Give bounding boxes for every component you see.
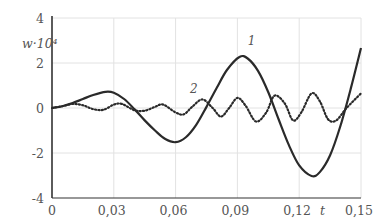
y-tick-label: -4 [32, 191, 44, 206]
x-tick-label: 0,09 [221, 203, 249, 218]
x-tick-label: 0 [48, 203, 56, 218]
y-tick-label: 2 [36, 56, 44, 71]
x-tick-label: 0,15 [345, 203, 373, 218]
y-tick-label: 4 [36, 11, 44, 26]
x-tick-label: 0,06 [160, 203, 188, 218]
y-tick-label: 0 [36, 101, 44, 116]
curve-labels: 12 [189, 34, 255, 96]
y-tick-label: -2 [32, 146, 44, 161]
y-axis-label: w·10⁴ [22, 36, 58, 51]
x-tick-label: 0,12 [283, 203, 311, 218]
line-chart: 00,030,060,090,120,15420-2-4 w·10⁴ t 12 [0, 0, 388, 223]
series-1-line [52, 48, 361, 176]
data-series [52, 48, 361, 176]
x-axis-label: t [320, 203, 326, 218]
curve-label: 2 [189, 82, 198, 96]
x-tick-label: 0,03 [98, 203, 126, 218]
curve-label: 1 [248, 34, 256, 48]
